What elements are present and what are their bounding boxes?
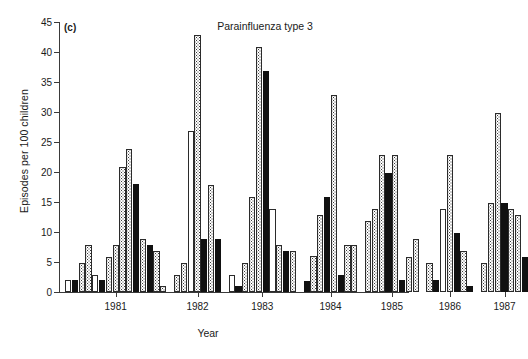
bar [126, 149, 132, 292]
bar [310, 256, 316, 292]
bar [242, 263, 248, 292]
bar [194, 35, 200, 292]
bar [188, 131, 194, 292]
bar [385, 173, 391, 292]
bar [181, 263, 187, 292]
bar [426, 263, 432, 292]
x-tick-mark [450, 292, 451, 297]
bars-layer [59, 22, 409, 292]
bar [153, 251, 159, 292]
bar [215, 239, 221, 292]
bar [256, 47, 262, 292]
x-tick-mark [505, 292, 506, 297]
bar [379, 155, 385, 292]
y-tick-label: 20 [41, 167, 52, 178]
x-tick-label-1986: 1986 [439, 301, 461, 312]
x-axis-spine [59, 292, 409, 293]
bar [133, 184, 139, 292]
bar [249, 197, 255, 292]
bar [99, 280, 105, 292]
bar [79, 263, 85, 292]
y-tick-label: 0 [46, 287, 52, 298]
bar [392, 155, 398, 292]
bar [113, 245, 119, 292]
x-tick-label-1985: 1985 [381, 301, 403, 312]
y-tick-label: 25 [41, 137, 52, 148]
bar [522, 257, 528, 292]
plot-area: 051015202530354045 198119821983198419851… [59, 22, 409, 292]
y-tick-label: 10 [41, 227, 52, 238]
x-tick-label-1984: 1984 [319, 301, 341, 312]
bar [147, 245, 153, 292]
y-tick-label: 30 [41, 107, 52, 118]
bar [344, 245, 350, 292]
bar [351, 245, 357, 292]
bar [269, 209, 275, 292]
y-tick-label: 45 [41, 17, 52, 28]
bar [160, 286, 166, 292]
x-tick-label-1983: 1983 [251, 301, 273, 312]
bar [304, 281, 310, 292]
x-tick-label-1987: 1987 [493, 301, 515, 312]
bar [447, 155, 453, 292]
bar [119, 167, 125, 292]
y-tick-label: 40 [41, 47, 52, 58]
bar [433, 280, 439, 292]
bar [324, 197, 330, 292]
x-tick-label-1982: 1982 [186, 301, 208, 312]
bar [276, 245, 282, 292]
bar [338, 275, 344, 292]
bar [399, 280, 405, 292]
y-tick-label: 5 [46, 257, 52, 268]
bar [106, 257, 112, 292]
x-tick-label-1981: 1981 [105, 301, 127, 312]
x-tick-mark [116, 292, 117, 297]
x-tick-mark [262, 292, 263, 297]
bar [515, 215, 521, 292]
y-tick-label: 15 [41, 197, 52, 208]
bar [495, 113, 501, 292]
bar [372, 209, 378, 292]
bar [72, 280, 78, 292]
bar [365, 221, 371, 292]
bar [263, 71, 269, 292]
bar [85, 245, 91, 292]
x-axis-label: Year [0, 327, 416, 339]
bar [140, 239, 146, 292]
bar [501, 203, 507, 292]
y-tick-label: 35 [41, 77, 52, 88]
bar [460, 251, 466, 292]
bar [208, 185, 214, 292]
y-tick-mark [54, 292, 59, 293]
bar [488, 203, 494, 292]
bar [454, 233, 460, 292]
bar [481, 263, 487, 292]
x-tick-mark [331, 292, 332, 297]
bar [413, 239, 419, 292]
bar [331, 95, 337, 292]
bar [406, 257, 412, 292]
bar [229, 275, 235, 292]
bar [317, 215, 323, 292]
bar [174, 275, 180, 292]
bar [65, 280, 71, 292]
bar [92, 275, 98, 292]
bar [440, 209, 446, 292]
bar [283, 251, 289, 292]
bar [235, 286, 241, 292]
bar [201, 239, 207, 292]
bar [508, 209, 514, 292]
y-axis-label: Episodes per 100 children [18, 51, 30, 251]
bar [290, 251, 296, 292]
x-tick-mark [392, 292, 393, 297]
bar [467, 286, 473, 292]
x-tick-mark [198, 292, 199, 297]
